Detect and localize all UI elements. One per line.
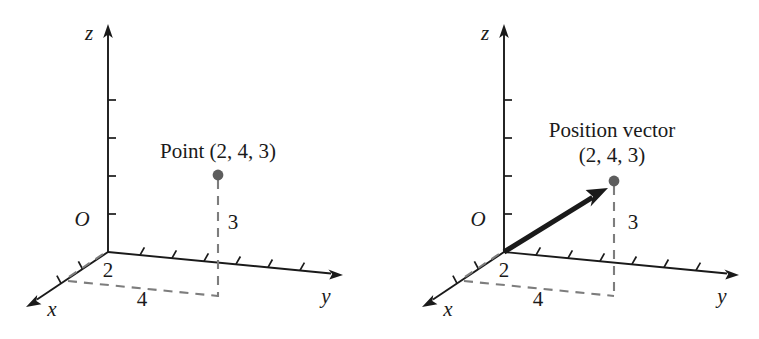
x-axis-tick xyxy=(78,261,82,269)
y-axis-tick xyxy=(600,253,604,261)
dashed-origin-edge xyxy=(462,254,499,279)
measure-label-2: 2 xyxy=(499,258,510,282)
dashed-origin-edge xyxy=(66,254,103,279)
y-axis-tick xyxy=(300,263,304,271)
y-axis-tick xyxy=(632,257,636,265)
measure-label-4: 4 xyxy=(137,287,148,311)
y-axis-tick xyxy=(664,260,668,268)
y-axis-tick xyxy=(536,247,540,255)
y-axis-tick xyxy=(140,247,144,255)
origin-label: O xyxy=(470,207,485,231)
point-marker xyxy=(609,176,620,187)
measure-label-4: 4 xyxy=(533,287,544,311)
x-axis-arrowhead xyxy=(422,295,437,307)
point-marker xyxy=(213,170,224,181)
y-axis-line xyxy=(504,252,727,274)
x-axis-tick xyxy=(57,276,61,284)
position-vector-shaft xyxy=(504,197,593,252)
y-axis-tick xyxy=(172,250,176,258)
projection-lines-group xyxy=(462,186,614,297)
position-vector-caption-line2: (2, 4, 3) xyxy=(579,143,646,167)
x-axis-label: x xyxy=(46,297,57,321)
figure-root: z y x O xyxy=(0,0,759,339)
position-vector-arrow xyxy=(504,188,608,252)
x-axis-label: x xyxy=(442,297,453,321)
y-axis-tick xyxy=(696,263,700,271)
projection-lines-group xyxy=(66,180,218,297)
y-axis-tick xyxy=(236,257,240,265)
y-axis-tick xyxy=(268,260,272,268)
diagram-position-vector: z y x O 2 xyxy=(380,0,759,339)
z-axis-label: z xyxy=(84,21,93,45)
measure-label-3: 3 xyxy=(628,210,639,234)
y-axis-line xyxy=(108,252,331,274)
z-axis-label: z xyxy=(480,21,489,45)
x-axis-tick xyxy=(474,261,478,269)
y-axis-label: y xyxy=(715,284,727,308)
diagram-point: z y x O xyxy=(0,0,380,339)
y-axis-tick xyxy=(204,253,208,261)
origin-label: O xyxy=(74,207,89,231)
y-axis-tick xyxy=(568,250,572,258)
x-axis-tick xyxy=(453,276,457,284)
y-axis-label: y xyxy=(319,284,331,308)
point-caption: Point (2, 4, 3) xyxy=(160,139,276,163)
position-vector-caption-line1: Position vector xyxy=(549,118,676,142)
measure-label-2: 2 xyxy=(103,258,114,282)
x-axis-group: x xyxy=(422,252,504,321)
x-axis-group: x xyxy=(26,252,108,321)
measure-label-3: 3 xyxy=(228,210,239,234)
x-axis-arrowhead xyxy=(26,295,41,307)
